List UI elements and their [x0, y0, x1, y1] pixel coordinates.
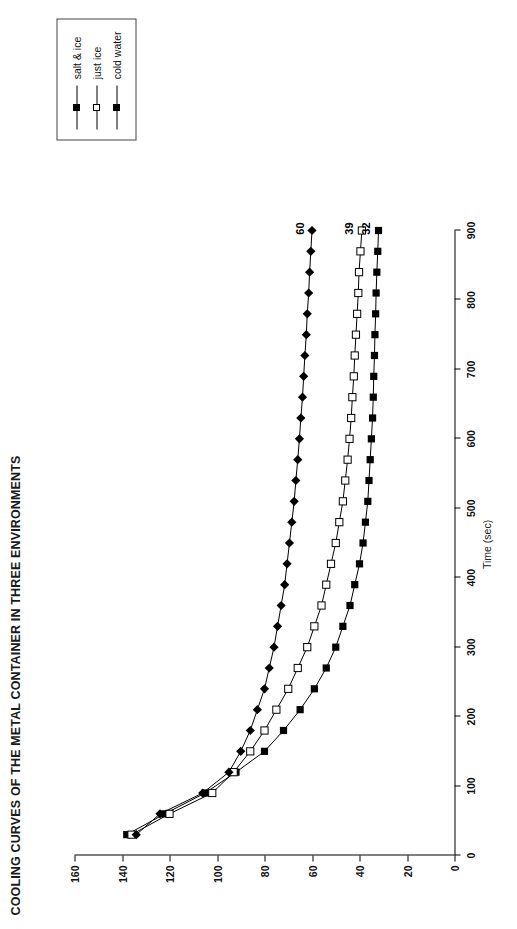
filled-diamond-marker	[306, 246, 315, 255]
y-tick-label: 20	[401, 865, 413, 895]
x-tick	[454, 646, 460, 647]
filled-square-marker	[296, 706, 303, 713]
open-square-marker	[355, 268, 362, 275]
filled-diamond-marker	[269, 642, 278, 651]
x-tick	[454, 715, 460, 716]
y-tick-label: 0	[448, 865, 460, 895]
y-tick	[454, 855, 455, 861]
filled-square-marker	[322, 664, 329, 671]
chart-canvas: COOLING CURVES OF THE METAL CONTAINER IN…	[0, 0, 517, 929]
x-tick-label: 900	[464, 221, 476, 239]
open-square-marker	[322, 581, 329, 588]
filled-square-marker	[332, 643, 339, 650]
legend-label: cold water	[110, 31, 122, 85]
y-tick	[359, 855, 360, 861]
filled-square-marker	[374, 226, 381, 233]
filled-diamond-marker	[284, 538, 293, 547]
series-svg	[74, 230, 454, 855]
filled-diamond-marker	[245, 725, 254, 734]
x-tick-label: 100	[464, 777, 476, 795]
legend-item-cold-water[interactable]: cold water	[106, 31, 126, 129]
legend-item-just-ice[interactable]: just ice	[86, 31, 106, 129]
y-tick-label: 40	[353, 865, 365, 895]
filled-square-marker	[355, 560, 362, 567]
series-line	[126, 230, 378, 834]
filled-square-marker	[310, 685, 317, 692]
filled-diamond-marker	[252, 705, 261, 714]
filled-diamond-marker	[305, 267, 314, 276]
filled-diamond-marker	[264, 663, 273, 672]
x-tick	[454, 437, 460, 438]
filled-diamond-marker	[276, 600, 285, 609]
y-tick	[217, 855, 218, 861]
y-tick	[74, 855, 75, 861]
y-tick-label: 160	[68, 865, 80, 895]
filled-diamond-marker	[282, 559, 291, 568]
open-square-marker	[348, 393, 355, 400]
filled-diamond-marker	[302, 309, 311, 318]
x-axis-line	[454, 230, 455, 855]
filled-square-marker	[372, 310, 379, 317]
filled-square-marker	[260, 747, 267, 754]
filled-square-marker	[364, 497, 371, 504]
open-square-marker	[272, 706, 279, 713]
filled-diamond-marker	[296, 413, 305, 422]
x-tick-label: 0	[464, 852, 476, 858]
filled-square-marker	[371, 331, 378, 338]
legend-item-salt-ice[interactable]: salt & ice	[66, 31, 86, 129]
legend-label: just ice	[90, 46, 102, 85]
filled-diamond-marker	[272, 621, 281, 630]
open-square-marker	[327, 560, 334, 567]
filled-square-marker	[279, 726, 286, 733]
y-tick-label: 100	[211, 865, 223, 895]
x-tick-label: 400	[464, 568, 476, 586]
open-square-marker	[208, 789, 215, 796]
x-tick-label: 300	[464, 638, 476, 656]
y-tick	[169, 855, 170, 861]
filled-diamond-marker	[301, 330, 310, 339]
x-tick	[454, 229, 460, 230]
filled-diamond-marker	[287, 517, 296, 526]
filled-square-marker	[359, 539, 366, 546]
open-square-marker	[356, 247, 363, 254]
open-square-marker	[294, 664, 301, 671]
open-square-marker	[246, 747, 253, 754]
legend-label: salt & ice	[70, 36, 82, 85]
filled-square-marker	[370, 372, 377, 379]
filled-square-marker	[351, 581, 358, 588]
y-tick-label: 120	[163, 865, 175, 895]
series-end-label: 32	[359, 222, 371, 234]
filled-diamond-marker	[304, 288, 313, 297]
open-square-marker	[345, 435, 352, 442]
series-line	[136, 230, 312, 834]
filled-diamond-marker	[259, 684, 268, 693]
series-end-label: 60	[293, 222, 305, 234]
x-tick-label: 500	[464, 499, 476, 517]
y-tick-label: 60	[306, 865, 318, 895]
open-square-marker	[344, 456, 351, 463]
y-tick-label: 80	[258, 865, 270, 895]
series-end-label: 39	[342, 222, 354, 234]
open-square-marker	[339, 497, 346, 504]
filled-diamond-marker	[297, 392, 306, 401]
series-line	[131, 230, 361, 834]
x-tick-label: 800	[464, 291, 476, 309]
filled-diamond-marker	[293, 455, 302, 464]
x-tick-label: 700	[464, 360, 476, 378]
y-tick	[312, 855, 313, 861]
open-square-marker	[350, 372, 357, 379]
filled-square-marker	[368, 414, 375, 421]
x-tick-label: 600	[464, 430, 476, 448]
x-tick	[454, 368, 460, 369]
filled-square-marker	[373, 268, 380, 275]
open-square-marker	[335, 518, 342, 525]
filled-diamond-marker	[299, 371, 308, 380]
chart-title: COOLING CURVES OF THE METAL CONTAINER IN…	[8, 455, 22, 915]
y-tick-label: 140	[116, 865, 128, 895]
filled-square-marker	[346, 601, 353, 608]
open-square-marker	[317, 601, 324, 608]
plot-area: 0100200300400500600700800900020406080100…	[74, 230, 454, 855]
filled-square-marker	[372, 289, 379, 296]
y-tick	[407, 855, 408, 861]
open-square-marker	[351, 351, 358, 358]
